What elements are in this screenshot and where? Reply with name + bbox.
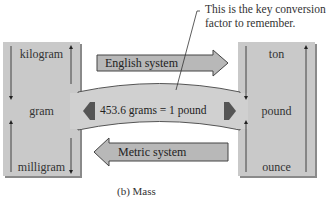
unit-ounce: ounce — [238, 160, 315, 175]
callout-leader — [176, 11, 200, 90]
unit-ton: ton — [238, 47, 315, 62]
unit-milligram: milligram — [3, 160, 80, 175]
english-system-label: English system — [105, 56, 178, 71]
unit-gram: gram — [3, 104, 80, 119]
unit-kilogram: kilogram — [3, 47, 80, 62]
metric-system-label: Metric system — [118, 145, 186, 160]
conversion-factor-label: 453.6 grams = 1 pound — [100, 104, 206, 116]
callout-line-2: factor to remember. — [205, 16, 326, 30]
unit-pound: pound — [238, 104, 315, 119]
figure-caption: (b) Mass — [117, 185, 156, 197]
callout-line-1: This is the key conversion — [205, 2, 326, 16]
callout-note: This is the key conversion factor to rem… — [205, 2, 326, 30]
